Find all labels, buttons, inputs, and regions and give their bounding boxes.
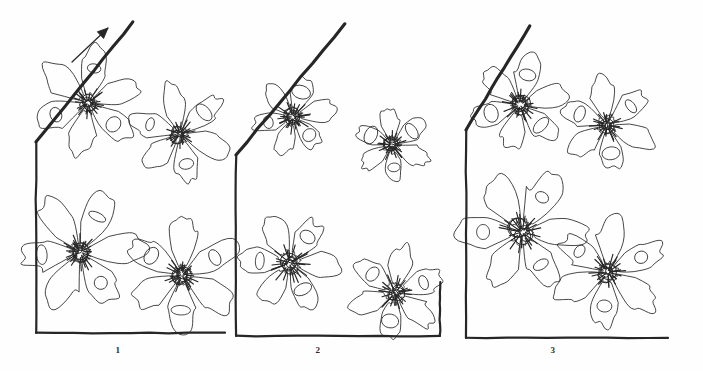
panel-border-left (236, 155, 237, 336)
panel-border-bottom (236, 336, 440, 337)
panel-border-right (440, 282, 441, 336)
panel-label-3: 3 (533, 345, 573, 355)
figure-canvas (0, 0, 703, 371)
panel-border-bottom (36, 333, 225, 334)
panel-border-bottom (466, 338, 668, 339)
panel-label-2: 2 (298, 345, 338, 355)
panel-border-left (466, 130, 467, 338)
panel-border-left (36, 142, 37, 333)
panel-label-1: 1 (98, 345, 138, 355)
